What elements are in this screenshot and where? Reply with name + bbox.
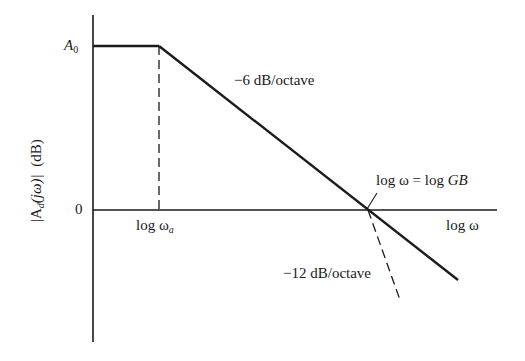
y-axis-label: |Ad(jω)| (dB) [28, 139, 46, 222]
a0-subscript: 0 [73, 44, 78, 55]
x-axis-label: log ω [446, 218, 479, 233]
crossing-prefix: log ω = log [376, 172, 448, 188]
crossing-gb: GB [448, 172, 468, 188]
y-label-mid: (jω)| [28, 174, 44, 203]
y-label-sub: d [35, 203, 46, 208]
corner-frequency-label: log ωa [136, 218, 174, 235]
y-label-prefix: |A [28, 208, 44, 222]
unity-gain-crossing-label: log ω = log GB [376, 173, 468, 188]
slope-6db-label: −6 dB/octave [234, 73, 315, 88]
a0-tick-label: A0 [64, 38, 78, 55]
a0-symbol: A [64, 37, 73, 53]
gb-leader-line [367, 193, 377, 209]
corner-label-prefix: log ω [136, 217, 169, 233]
y-label-unit: (dB) [28, 139, 44, 167]
corner-label-sub: a [169, 224, 174, 235]
slope-12db-label: −12 dB/octave [283, 266, 371, 281]
zero-db-tick-label: 0 [75, 202, 83, 217]
